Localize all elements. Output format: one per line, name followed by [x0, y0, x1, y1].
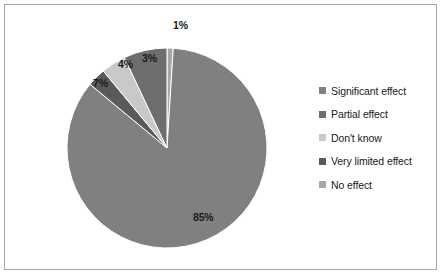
slice-value-label: 7%	[93, 77, 108, 89]
pie-chart	[5, 5, 305, 269]
legend-swatch-icon	[319, 134, 326, 141]
legend-swatch-icon	[319, 158, 326, 165]
legend-swatch-icon	[319, 181, 326, 188]
slice-value-label: 1%	[173, 19, 188, 31]
legend-swatch-icon	[319, 111, 326, 118]
slice-value-label: 85%	[193, 211, 213, 223]
legend-item-label: Partial effect	[331, 108, 388, 120]
legend-item[interactable]: Don't know	[319, 130, 437, 145]
legend-item[interactable]: No effect	[319, 177, 437, 192]
slice-value-label: 3%	[142, 52, 157, 64]
legend-swatch-icon	[319, 87, 326, 94]
chart-frame: 1%3%4%7%85% Significant effectPartial ef…	[4, 4, 437, 270]
chart-legend: Significant effectPartial effectDon't kn…	[319, 83, 437, 201]
legend-item[interactable]: Significant effect	[319, 83, 437, 98]
legend-item-label: Significant effect	[331, 85, 406, 97]
slice-value-label: 4%	[118, 58, 133, 70]
legend-item-label: Very limited effect	[331, 155, 412, 167]
legend-item[interactable]: Very limited effect	[319, 154, 437, 169]
legend-item-label: No effect	[331, 179, 372, 191]
legend-item[interactable]: Partial effect	[319, 107, 437, 122]
pie-plot-area: 1%3%4%7%85%	[5, 5, 305, 269]
legend-item-label: Don't know	[331, 132, 382, 144]
